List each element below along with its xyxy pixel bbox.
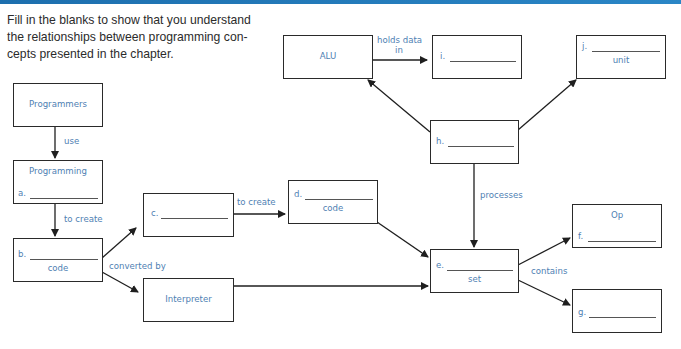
blank-f[interactable]	[588, 241, 656, 242]
blank-label-b: b.	[18, 249, 26, 259]
node-suffix: code	[289, 203, 377, 213]
blank-g[interactable]	[589, 317, 656, 318]
edge-label-holds-data: holds data	[377, 35, 422, 45]
node-g: g.	[572, 289, 662, 333]
node-d: d. code	[288, 180, 378, 224]
blank-label-f: f.	[578, 231, 583, 241]
blank-j[interactable]	[592, 51, 660, 52]
blank-e[interactable]	[447, 270, 513, 271]
blank-label-g: g.	[578, 307, 586, 317]
blank-h[interactable]	[448, 146, 514, 147]
node-c: c.	[143, 193, 234, 237]
blank-label-c: c.	[151, 208, 158, 218]
blank-i[interactable]	[450, 61, 516, 62]
node-b: b. code	[13, 238, 103, 282]
node-j: j. unit	[576, 35, 666, 79]
blank-label-e: e.	[436, 260, 444, 270]
node-title: ALU	[284, 51, 372, 61]
edge-label-to-create-2: to create	[237, 197, 276, 207]
blank-label-a: a.	[18, 188, 26, 198]
node-suffix: set	[431, 274, 518, 284]
node-programmers: Programmers	[13, 83, 103, 127]
node-title: Programming	[14, 166, 102, 176]
node-interpreter: Interpreter	[143, 278, 234, 322]
edge-label-to-create: to create	[64, 214, 103, 224]
node-suffix: code	[14, 263, 102, 273]
blank-label-h: h.	[436, 136, 444, 146]
edge-label-contains: contains	[531, 266, 567, 276]
node-e: e. set	[430, 249, 519, 293]
blank-b[interactable]	[30, 259, 98, 260]
node-h: h.	[430, 120, 519, 164]
edge-label-in: in	[395, 45, 403, 55]
node-i: i.	[432, 35, 522, 79]
node-suffix: unit	[577, 55, 665, 65]
node-title: Op	[573, 210, 661, 220]
node-f: Op f.	[572, 204, 662, 248]
blank-d[interactable]	[305, 199, 373, 200]
blank-label-j: j.	[582, 41, 587, 51]
blank-label-d: d.	[294, 189, 302, 199]
edge-label-processes: processes	[480, 190, 523, 200]
blank-a[interactable]	[30, 198, 98, 199]
edge-label-use: use	[64, 136, 79, 146]
edge-label-converted-by: converted by	[109, 261, 166, 271]
node-alu: ALU	[283, 35, 373, 79]
node-programming: Programming a.	[13, 160, 103, 204]
node-title: Programmers	[14, 99, 102, 109]
node-title: Interpreter	[144, 294, 233, 304]
blank-c[interactable]	[161, 218, 228, 219]
blank-label-i: i.	[440, 51, 445, 61]
